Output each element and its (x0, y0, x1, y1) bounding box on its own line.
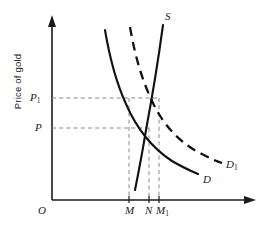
y-axis-label: Price of gold (12, 42, 23, 122)
x-tick-label-m: M (125, 205, 134, 216)
y-tick-label-p1-base: P (30, 91, 37, 103)
chart-canvas (0, 0, 267, 229)
y-tick-label-p: P (35, 122, 42, 133)
y-tick-label-p1: P1 (30, 92, 40, 103)
curve-label-d1-base: D (226, 158, 234, 170)
curve-label-d1-sub: 1 (234, 163, 238, 172)
x-tick-label-m1: M1 (156, 205, 169, 216)
x-tick-label-m1-base: M (156, 204, 165, 216)
x-tick-label-m1-sub: 1 (165, 209, 169, 218)
y-axis-arrow-icon (48, 15, 56, 27)
origin-label: O (38, 205, 46, 216)
curve-label-d: D (203, 174, 211, 185)
x-axis-arrow-icon (244, 196, 256, 204)
curve-label-d1: D1 (226, 159, 238, 170)
supply-demand-chart: Price of gold O M N M1 P P1 S D D1 (0, 0, 267, 229)
y-tick-label-p1-sub: 1 (37, 96, 41, 105)
x-tick-label-n: N (145, 205, 152, 216)
curve-label-s: S (165, 11, 171, 22)
